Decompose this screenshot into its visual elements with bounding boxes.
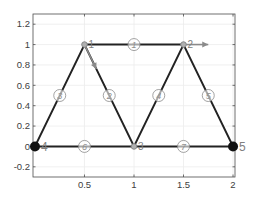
node-label: 2 [188, 39, 194, 50]
element-label-5: 5 [202, 90, 214, 102]
y-tick-label: 1.2 [17, 18, 30, 29]
element-label-text: 3 [57, 91, 62, 101]
element-label-text: 6 [82, 142, 87, 152]
node-marker-icon [82, 42, 88, 48]
node-5: 5 [228, 140, 246, 154]
node-2: 2 [181, 39, 194, 50]
node-label: 3 [138, 141, 144, 152]
element-label-text: 1 [131, 40, 136, 50]
y-tick-label: -0.2 [14, 161, 30, 172]
node-label: 5 [239, 140, 246, 154]
x-tick-label: 0.5 [78, 179, 91, 190]
node-marker-icon [131, 144, 137, 150]
node-1: 1 [82, 39, 95, 50]
support-node-marker-icon [30, 141, 40, 151]
node-label: 1 [88, 39, 94, 50]
element-label-1: 1 [128, 39, 140, 51]
element-label-6: 6 [78, 140, 90, 152]
element-label-4: 4 [153, 90, 165, 102]
y-tick-label: 0.2 [17, 120, 30, 131]
element-label-3: 3 [54, 90, 66, 102]
load-arrow-head-icon [202, 42, 208, 48]
element-label-7: 7 [178, 140, 190, 152]
element-label-2: 2 [103, 90, 115, 102]
x-tick-label: 1 [131, 179, 136, 190]
node-label: 4 [41, 140, 48, 154]
y-tick-label: 0.8 [17, 59, 30, 70]
support-node-marker-icon [228, 141, 238, 151]
node-marker-icon [181, 42, 187, 48]
x-tick-label: 1.5 [177, 179, 190, 190]
axis-ticks: 0.511.521.210.80.60.40.20-0.2 [14, 14, 236, 190]
y-tick-label: 0 [25, 141, 30, 152]
y-tick-label: 1 [25, 39, 30, 50]
y-tick-label: 0.4 [17, 100, 30, 111]
y-tick-label: 0.6 [17, 80, 30, 91]
x-tick-label: 2 [230, 179, 235, 190]
truss-figure: 0.511.521.210.80.60.40.20-0.2 1234567 12… [0, 0, 258, 202]
element-label-text: 2 [106, 91, 112, 101]
element-label-text: 4 [156, 91, 161, 101]
